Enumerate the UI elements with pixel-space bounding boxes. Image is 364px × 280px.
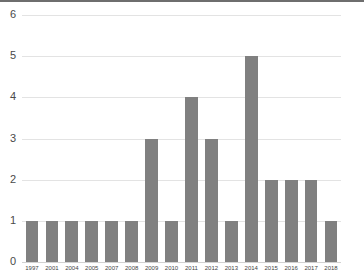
y-axis-tick-label: 4 [0, 91, 16, 102]
bar [225, 221, 238, 262]
bar [265, 180, 278, 262]
bar [46, 221, 59, 262]
y-axis-tick-label: 3 [0, 133, 16, 144]
x-axis-tick-label: 2017 [301, 265, 321, 272]
bar [185, 97, 198, 262]
x-axis-tick-label: 2001 [42, 265, 62, 272]
bar [165, 221, 178, 262]
bar [325, 221, 338, 262]
y-axis-tick-label: 6 [0, 9, 16, 20]
bar [285, 180, 298, 262]
gridline [22, 139, 341, 140]
plot-area: 0123456 19972001200420052007200820092010… [0, 0, 364, 280]
x-axis-tick-label: 1997 [22, 265, 42, 272]
bar [65, 221, 78, 262]
x-axis-tick-label: 2018 [321, 265, 341, 272]
x-axis-tick-label: 2007 [102, 265, 122, 272]
x-axis-tick-label: 2014 [241, 265, 261, 272]
gridline [22, 56, 341, 57]
bar [85, 221, 98, 262]
gridline [22, 262, 341, 263]
bar [26, 221, 39, 262]
y-axis-tick-label: 5 [0, 50, 16, 61]
x-axis-tick-label: 2004 [62, 265, 82, 272]
bar [205, 139, 218, 263]
bar [125, 221, 138, 262]
x-axis-tick-label: 2008 [122, 265, 142, 272]
bar-chart: 0123456 19972001200420052007200820092010… [0, 0, 364, 280]
x-axis-tick-label: 2013 [221, 265, 241, 272]
x-axis-tick-label: 2010 [162, 265, 182, 272]
bar [305, 180, 318, 262]
gridline [22, 15, 341, 16]
gridline [22, 97, 341, 98]
bar [245, 56, 258, 262]
y-axis-tick-label: 0 [0, 256, 16, 267]
x-axis-tick-label: 2005 [82, 265, 102, 272]
x-axis-tick-label: 2009 [142, 265, 162, 272]
y-axis-tick-label: 1 [0, 215, 16, 226]
x-axis-tick-label: 2011 [182, 265, 202, 272]
bar [105, 221, 118, 262]
y-axis-tick-label: 2 [0, 174, 16, 185]
x-axis-tick-label: 2016 [281, 265, 301, 272]
x-axis-tick-label: 2012 [201, 265, 221, 272]
bar [145, 139, 158, 263]
x-axis-tick-label: 2015 [261, 265, 281, 272]
